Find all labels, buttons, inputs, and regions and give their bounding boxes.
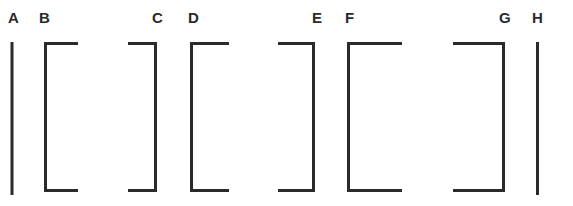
bracket-b xyxy=(46,44,79,191)
diagram-canvas xyxy=(0,0,573,206)
bracket-g xyxy=(453,44,504,191)
bracket-f xyxy=(349,44,403,191)
bracket-c xyxy=(128,44,156,191)
bracket-e xyxy=(278,44,314,191)
bracket-d xyxy=(192,44,230,191)
